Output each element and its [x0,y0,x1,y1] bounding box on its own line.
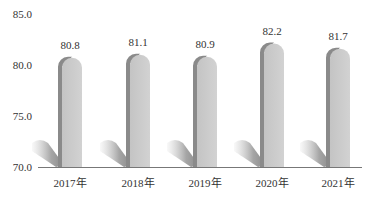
bar-2020年 [264,44,284,167]
value-label: 82.2 [262,25,281,37]
x-axis-line [38,167,362,168]
bar-2017年 [62,58,82,167]
bar-2018年 [130,55,150,167]
x-tick-label: 2018年 [122,174,155,190]
value-label: 80.9 [195,38,214,50]
bars-layer [0,0,370,198]
x-tick-label: 2019年 [189,174,222,190]
x-tick-label: 2020年 [256,174,289,190]
bar-2021年 [330,49,350,167]
value-label: 80.8 [60,39,79,51]
bar-2019年 [197,57,217,167]
bar-chart: 85.0 80.0 75.0 70.0 2017年2018年2019年2020年… [0,0,370,198]
x-tick-label: 2017年 [54,174,87,190]
x-tick-label: 2021年 [322,174,355,190]
value-label: 81.7 [328,30,347,42]
value-label: 81.1 [128,36,147,48]
